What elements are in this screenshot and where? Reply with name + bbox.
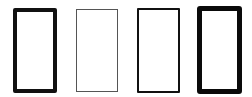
rectangle-thin bbox=[76, 9, 118, 92]
rectangle-thick bbox=[13, 8, 57, 93]
rectangle-medium bbox=[137, 8, 180, 93]
rectangle-extra-thick bbox=[197, 6, 242, 94]
